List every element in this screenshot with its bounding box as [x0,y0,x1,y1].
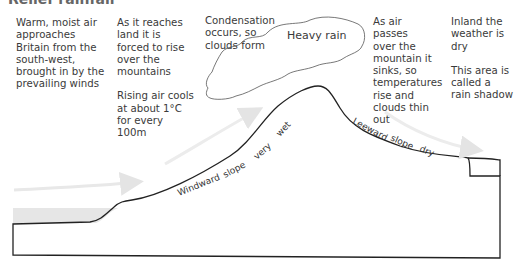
annotation-approach: Warm, moist air approaches Britain from … [16,17,106,91]
svg-text:slope: slope [389,133,415,152]
svg-text:slope: slope [221,159,247,179]
annotation-condensation: Condensation occurs, so clouds form [205,15,275,52]
annotation-sinking: As air passes over the mountain it sinks… [373,16,433,127]
sea-area [13,208,118,224]
svg-text:dry: dry [418,144,436,159]
annotation-rise-cooling: As it reaches land it is forced to rise … [117,17,195,140]
cloud-label: Heavy rain [287,30,347,42]
svg-text:wet: wet [274,119,293,138]
svg-text:very: very [252,140,274,161]
rain-shadow-diagram: Relief rainfall Windward slope very wet … [0,0,515,272]
annotation-rain-shadow: Inland the weather is dry This area is c… [451,16,513,102]
airflow-arrow-1 [14,182,138,190]
windward-label: Windward [176,172,221,198]
